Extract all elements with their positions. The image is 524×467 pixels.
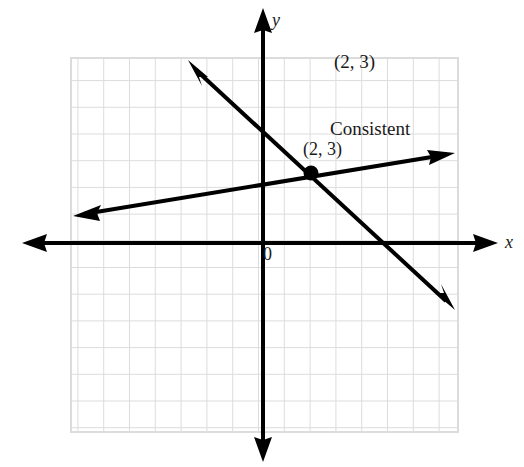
coordinate-plane-figure: (2, 3) Consistent y x 0 (2, 3): [0, 0, 524, 467]
graph-canvas: [0, 0, 524, 467]
y-axis-label: y: [272, 10, 280, 31]
intersection-point-dot: [304, 166, 319, 181]
intersection-point-label: (2, 3): [303, 139, 342, 160]
caption-status-text: Consistent: [330, 118, 410, 140]
origin-label: 0: [263, 244, 272, 265]
figure-caption: (2, 3) Consistent: [330, 6, 410, 185]
caption-point-text: (2, 3): [334, 51, 410, 73]
x-axis-label: x: [505, 232, 513, 253]
